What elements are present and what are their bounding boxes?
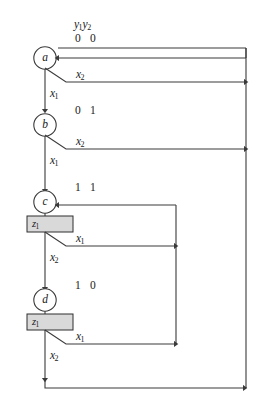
edge-label-a-to-b: x1 [50,88,59,101]
state-label-a: a [38,52,52,64]
edge-label-d-branch: x1 [76,331,85,344]
edge-label-c-branch: x1 [76,233,85,246]
edge-label-c-to-d: x2 [50,252,59,265]
edge-label-b-to-c: x1 [50,155,59,168]
state-encoding-c: 1 1 [75,182,99,194]
edge-d-exit-x2-bottom [45,380,244,388]
edge-label-d-exit: x2 [50,350,59,363]
state-var-y2: y2 [83,18,92,30]
output-label-d: z1 [32,317,39,329]
edge-a-branch-x2 [45,68,245,82]
edge-label-b-branch: x2 [76,136,85,149]
state-vars-header: y1y2 [74,19,91,32]
edge-d-branch-x1 [45,330,175,344]
state-encoding-a: 0 0 [75,33,99,45]
edge-label-a-branch: x2 [76,69,85,82]
state-label-c: c [38,196,52,208]
state-encoding-d: 1 0 [75,280,99,292]
state-label-b: b [38,119,52,131]
output-label-c: z1 [32,219,39,231]
state-label-d: d [38,294,52,306]
state-diagram: y1y2 0 0 0 1 1 1 1 0 a b c d z1 z1 x2 x1… [0,0,261,408]
edge-c-branch-x1 [45,232,175,246]
state-encoding-b: 0 1 [75,105,99,117]
state-var-y1: y1 [74,18,83,30]
edge-b-branch-x2 [45,135,245,149]
